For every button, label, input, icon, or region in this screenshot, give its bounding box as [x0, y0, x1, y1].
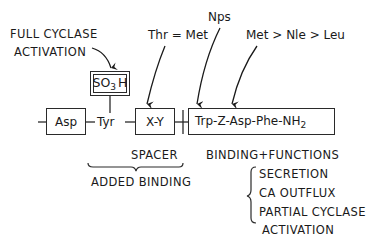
thr-met-label: Thr = Met — [148, 29, 208, 41]
function-ca-outflux: CA OUTFLUX — [259, 188, 336, 200]
arrow-full-cyclase — [92, 48, 111, 68]
arrow-met-nle-leu — [232, 46, 257, 104]
nps-label: Nps — [208, 11, 231, 23]
full-cyclase-label-line2: ACTIVATION — [14, 47, 86, 59]
spacer-brace — [88, 163, 183, 171]
xy-box: X-Y — [135, 108, 175, 135]
tyr-label: Tyr — [97, 116, 115, 128]
arrow-thr-met — [147, 46, 165, 104]
asp-label: Asp — [55, 115, 77, 129]
function-partial-cyclase: PARTIAL CYCLASE — [259, 207, 366, 219]
met-nle-leu-label: Met > Nle > Leu — [246, 29, 345, 41]
so3h-box: SO3H — [90, 71, 130, 96]
so3h-label: SO3H — [93, 75, 128, 92]
function-activation: ACTIVATION — [262, 225, 334, 237]
trp-segment-label: Trp-Z-Asp-Phe-NH2 — [195, 114, 306, 130]
binding-functions-label: BINDING+FUNCTIONS — [206, 150, 339, 162]
spacer-label: SPACER — [131, 150, 178, 162]
xy-label: X-Y — [146, 115, 164, 129]
asp-box: Asp — [46, 108, 86, 135]
trp-segment-box: Trp-Z-Asp-Phe-NH2 — [188, 108, 335, 135]
function-secretion: SECRETION — [259, 169, 329, 181]
functions-brace — [247, 167, 256, 223]
added-binding-label: ADDED BINDING — [91, 177, 191, 189]
full-cyclase-label-line1: FULL CYCLASE — [10, 29, 98, 41]
